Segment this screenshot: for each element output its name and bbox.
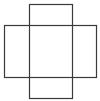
cross-diagram	[0, 0, 100, 101]
horizontal-rectangle	[5, 26, 97, 78]
vertical-rectangle	[30, 5, 73, 99]
